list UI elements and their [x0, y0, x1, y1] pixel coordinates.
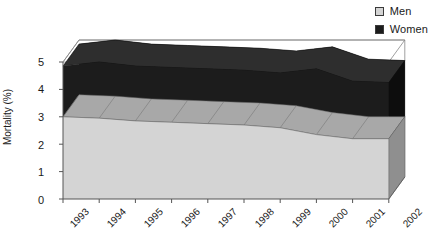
chart-plot-area — [0, 0, 434, 246]
chart-root: Men Women Mortality (%) 5 4 3 2 1 0 1993… — [0, 0, 434, 246]
